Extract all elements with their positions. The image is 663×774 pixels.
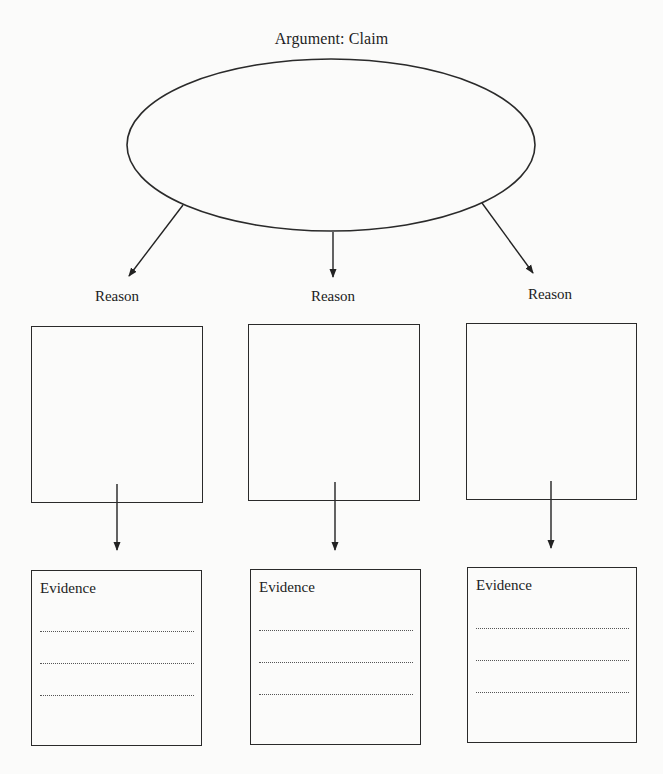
reason-box-3[interactable] [466, 323, 637, 500]
claim-ellipse[interactable] [127, 59, 535, 231]
evidence-2-line-1[interactable] [259, 630, 413, 631]
evidence-3-line-1[interactable] [476, 628, 629, 629]
evidence-label-3: Evidence [476, 577, 532, 594]
evidence-2-line-3[interactable] [259, 694, 413, 695]
evidence-1-line-2[interactable] [40, 663, 194, 664]
argument-diagram: Argument: Claim Reason Reason Reason Evi… [0, 0, 663, 774]
reason-box-2[interactable] [248, 324, 420, 501]
evidence-2-line-2[interactable] [259, 662, 413, 663]
evidence-box-3[interactable]: Evidence [467, 567, 637, 743]
reason-label-2: Reason [273, 288, 393, 305]
reason-label-1: Reason [57, 288, 177, 305]
reason-box-1[interactable] [31, 326, 203, 503]
arrow-claim-to-reason-1 [129, 205, 183, 276]
evidence-1-line-3[interactable] [40, 695, 194, 696]
reason-label-3: Reason [490, 286, 610, 303]
evidence-label-1: Evidence [40, 580, 96, 597]
evidence-box-2[interactable]: Evidence [250, 569, 421, 745]
arrow-claim-to-reason-3 [482, 203, 533, 273]
evidence-1-line-1[interactable] [40, 631, 194, 632]
evidence-3-line-2[interactable] [476, 660, 629, 661]
evidence-box-1[interactable]: Evidence [31, 570, 202, 746]
evidence-label-2: Evidence [259, 579, 315, 596]
evidence-3-line-3[interactable] [476, 692, 629, 693]
